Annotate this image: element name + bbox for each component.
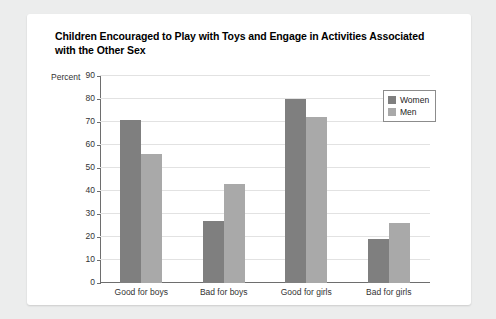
plot-area bbox=[100, 76, 430, 283]
bar-women bbox=[120, 120, 141, 283]
x-axis-category-label: Good for boys bbox=[100, 287, 183, 297]
bar-women bbox=[368, 239, 389, 283]
y-axis-tick-label: 20 bbox=[65, 231, 95, 241]
legend-item-men: Men bbox=[388, 106, 429, 118]
legend-swatch-men bbox=[388, 108, 396, 116]
y-axis-tick-label: 70 bbox=[65, 116, 95, 126]
y-axis-tick-label: 40 bbox=[65, 185, 95, 195]
gridline bbox=[100, 98, 430, 99]
chart-card: Children Encouraged to Play with Toys an… bbox=[27, 14, 471, 305]
bar-men bbox=[141, 154, 162, 283]
chart-title: Children Encouraged to Play with Toys an… bbox=[55, 29, 445, 57]
x-axis-category-label: Bad for girls bbox=[348, 287, 431, 297]
gridline bbox=[100, 144, 430, 145]
y-axis-tick-label: 90 bbox=[65, 70, 95, 80]
x-axis-category-label: Good for girls bbox=[265, 287, 348, 297]
legend-item-women: Women bbox=[388, 94, 429, 106]
y-axis-tick-mark bbox=[97, 283, 100, 284]
bar-men bbox=[306, 117, 327, 283]
legend-label-men: Men bbox=[400, 107, 417, 117]
gridline bbox=[100, 75, 430, 76]
chart-legend: Women Men bbox=[383, 90, 436, 122]
legend-swatch-women bbox=[388, 96, 396, 104]
x-axis-category-label: Bad for boys bbox=[183, 287, 266, 297]
bar-women bbox=[285, 99, 306, 283]
y-axis-tick-label: 50 bbox=[65, 162, 95, 172]
y-axis-tick-label: 0 bbox=[65, 277, 95, 287]
bar-women bbox=[203, 221, 224, 283]
y-axis-tick-label: 30 bbox=[65, 208, 95, 218]
legend-label-women: Women bbox=[400, 95, 429, 105]
y-axis-tick-label: 10 bbox=[65, 254, 95, 264]
bar-men bbox=[389, 223, 410, 283]
y-axis-tick-label: 60 bbox=[65, 139, 95, 149]
gridline bbox=[100, 121, 430, 122]
y-axis-tick-label: 80 bbox=[65, 93, 95, 103]
bar-men bbox=[224, 184, 245, 283]
